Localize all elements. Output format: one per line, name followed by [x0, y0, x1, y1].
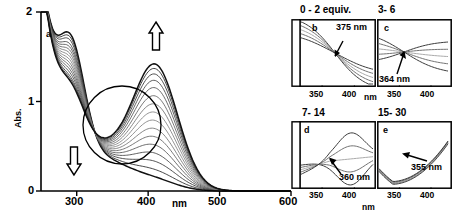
inset-c-x-tick-400: 400 [420, 90, 434, 99]
main-x-axis-label: nm [172, 199, 187, 209]
inset-b-heading: 0 - 2 equiv. [300, 5, 351, 15]
absorption-spectra-figure: a Abs. 2 1 0 300 400 500 600 nm 0 - 2 eq… [0, 0, 453, 223]
main-x-tick-400: 400 [137, 196, 155, 207]
main-x-tick-500: 500 [208, 196, 226, 207]
main-panel-letter: a [46, 30, 51, 39]
inset-c-x-tick-350: 350 [387, 90, 401, 99]
inset-c-letter: c [384, 24, 389, 33]
inset-d-x-tick-400: 400 [342, 191, 356, 200]
inset-e-x-tick-350: 350 [387, 191, 401, 200]
decreasing-band-arrow [67, 147, 81, 175]
main-y-axis-label: Abs. [14, 108, 23, 128]
inset-b-letter: b [312, 24, 318, 33]
inset-d-heading: 7- 14 [302, 108, 325, 118]
main-y-tick-0: 0 [28, 185, 34, 196]
inset-e-letter: e [383, 126, 388, 135]
inset-b-left-axis-strip [288, 19, 301, 87]
inset-e-heading: 15- 30 [378, 108, 406, 118]
inset-d-left-axis-strip [288, 121, 301, 189]
inset-b-annotation: 375 nm [336, 23, 367, 32]
increasing-band-arrow [149, 22, 163, 50]
inset-b-x-tick-350: 350 [309, 90, 323, 99]
main-x-tick-600: 600 [279, 196, 297, 207]
main-x-tick-300: 300 [65, 196, 83, 207]
inset-e-plot [377, 121, 452, 189]
inset-top-row-x-label: nm [364, 93, 377, 102]
main-y-tick-2: 2 [26, 6, 32, 17]
inset-d-letter: d [304, 126, 310, 135]
inset-bottom-row-x-label: nm [362, 203, 375, 212]
main-y-tick-1: 1 [28, 96, 34, 107]
inset-b-x-tick-400: 400 [342, 90, 356, 99]
inset-e-x-tick-400: 400 [420, 191, 434, 200]
main-spectra-plot [0, 0, 300, 200]
inset-c-heading: 3- 6 [378, 5, 395, 15]
inset-e-annotation: 355 nm [411, 163, 442, 172]
inset-d-x-tick-350: 350 [309, 191, 323, 200]
inset-c-annotation: 364 nm [379, 75, 410, 84]
inset-d-annotation: 360 nm [339, 173, 370, 182]
